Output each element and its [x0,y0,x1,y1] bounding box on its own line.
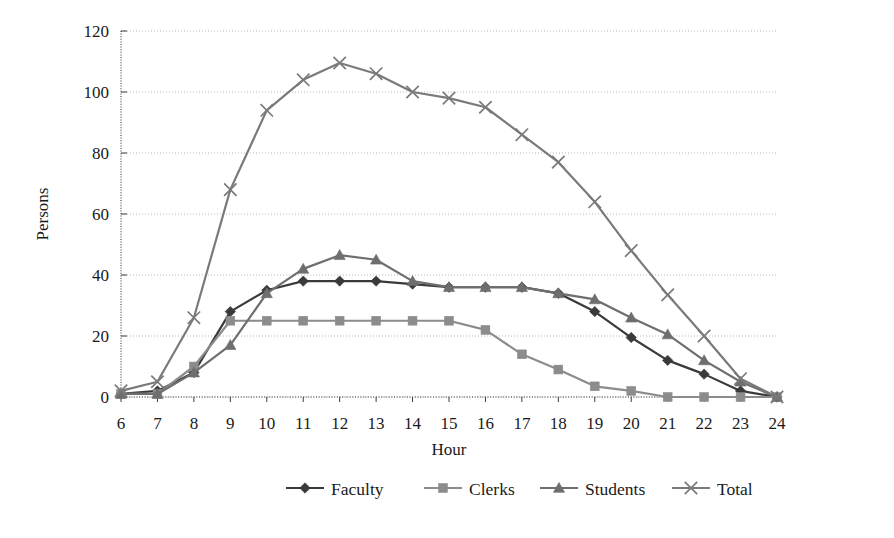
x-axis-tick-label: 9 [226,414,235,433]
legend-label: Students [585,479,645,499]
x-axis-tick-label: 23 [732,414,749,433]
y-axis-tick-label: 100 [84,83,110,102]
data-point-square [590,382,599,391]
data-point-square [299,316,308,325]
legend-label: Clerks [469,479,515,499]
data-point-square [517,350,526,359]
data-point-square [663,393,672,402]
legend-label: Faculty [331,479,384,499]
x-axis-tick-label: 21 [659,414,676,433]
data-point-square [736,393,745,402]
x-axis-tick-label: 8 [190,414,199,433]
y-axis-tick-label: 120 [84,22,110,41]
legend-label: Total [717,479,753,499]
x-axis-tick-label: 15 [441,414,458,433]
data-point-square [439,484,448,493]
data-point-square [372,316,381,325]
data-point-square [481,326,490,335]
x-axis-tick-label: 7 [153,414,162,433]
x-axis-tick-label: 18 [550,414,567,433]
chart-container: 020406080100120 678910111213141516171819… [0,0,894,538]
x-axis-tick-label: 17 [513,414,531,433]
y-axis-tick-label: 0 [101,388,110,407]
x-axis-tick-label: 10 [258,414,275,433]
data-point-square [700,393,709,402]
x-axis-tick-label: 14 [404,414,422,433]
y-axis-tick-label: 40 [92,266,109,285]
x-axis-tick-label: 22 [696,414,713,433]
x-axis-tick-label: 16 [477,414,494,433]
data-point-square [554,365,563,374]
x-axis-tick-label: 13 [368,414,385,433]
data-point-square [262,316,271,325]
x-axis-tick-label: 19 [586,414,603,433]
y-axis-tick-label: 20 [92,327,109,346]
data-point-square [335,316,344,325]
data-point-square [627,387,636,396]
line-chart: 020406080100120 678910111213141516171819… [0,0,894,538]
x-axis-tick-label: 20 [623,414,640,433]
data-point-square [445,316,454,325]
x-axis-tick-label: 6 [117,414,126,433]
y-axis-tick-label: 80 [92,144,109,163]
x-axis-tick-label: 12 [331,414,348,433]
data-point-square [408,316,417,325]
y-axis-tick-label: 60 [92,205,109,224]
x-axis-tick-label: 11 [295,414,311,433]
x-axis-tick-label: 24 [769,414,787,433]
x-axis-title: Hour [432,440,467,459]
data-point-square [226,316,235,325]
y-axis-title: Persons [33,188,52,241]
